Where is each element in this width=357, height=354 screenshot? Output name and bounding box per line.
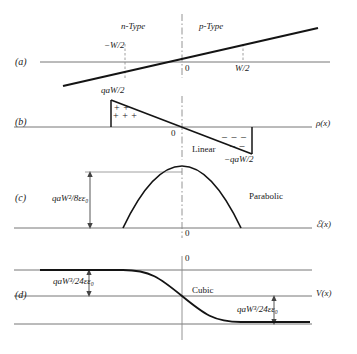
field-axis-label: ℰ(x) — [316, 220, 331, 229]
n-type-label: n-Type — [121, 22, 145, 31]
v-axis-label: V(x) — [316, 289, 332, 298]
graded-junction-figure: (a) (b) (c) (d) n-Type p-Type −W/2 0 W/2… — [0, 0, 357, 354]
panel-b-zero-label: 0 — [171, 129, 176, 138]
cubic-label: Cubic — [192, 286, 214, 295]
panel-c-zero-label: 0 — [185, 229, 190, 238]
panel-b-id: (b) — [15, 117, 27, 127]
minus-w-half-label: −W/2 — [104, 41, 125, 50]
panel-d-id: (d) — [15, 290, 27, 300]
linear-label: Linear — [192, 145, 215, 154]
plus-charges-row-2: + + + — [113, 111, 137, 121]
p-type-label: p-Type — [199, 22, 223, 31]
qaw-half-label: qɑW/2 — [101, 86, 125, 95]
neg-qaw-half-label: −qɑW/2 — [224, 155, 254, 164]
minus-charges-row-2: – – — [230, 141, 246, 151]
panel-a-doping-line — [63, 28, 318, 86]
w-half-label: W/2 — [235, 64, 250, 73]
potential-step-top-label: qɑW³/24εε₀ — [53, 277, 94, 286]
panel-a-id: (a) — [15, 57, 27, 67]
panel-d-zero-label: 0 — [185, 254, 190, 263]
panel-a-zero-label: 0 — [185, 64, 190, 73]
figure-canvas — [0, 0, 357, 354]
parabolic-label: Parabolic — [249, 192, 283, 201]
rho-axis-label: ρ(x) — [316, 119, 330, 128]
field-peak-label: qɑW²/8εε₀ — [52, 194, 88, 203]
potential-step-bottom-label: qɑW³/24εε₀ — [237, 305, 278, 314]
panel-c-id: (c) — [15, 193, 26, 203]
